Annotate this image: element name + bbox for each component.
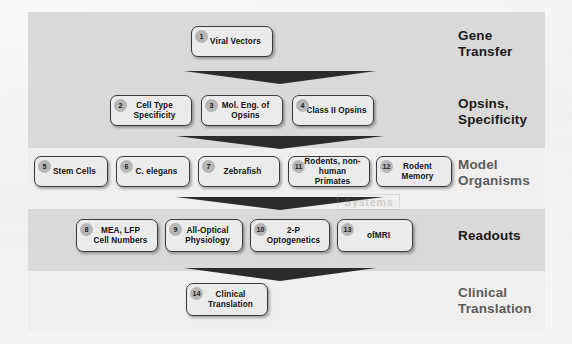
node-badge: 12 [380,160,393,173]
node-badge: 6 [120,160,133,173]
node-badge: 2 [114,99,127,112]
node-label: Clinical Translation [197,290,257,310]
node-ofmri[interactable]: 13 ofMRI [337,219,413,252]
node-rodent-memory[interactable]: 12 Rodent Memory [376,156,452,187]
arrow-gene-transfer-to-opsins [184,71,376,84]
tier-label-opsins-specificity: Opsins, Specificity [458,96,527,127]
node-stem-cells[interactable]: 5 Stem Cells [34,156,108,187]
tier-label-readouts: Readouts [458,228,521,244]
node-badge: 10 [254,223,267,236]
figure-canvas: Systems 1 Viral Vectors Gene Transfer 2 … [0,0,572,344]
node-label: Mol. Eng. of Opsins [211,101,274,121]
node-mol-eng-of-opsins[interactable]: 3 Mol. Eng. of Opsins [201,95,283,126]
node-badge: 4 [296,99,309,112]
node-class-ii-opsins[interactable]: 4 Class II Opsins [292,95,374,126]
node-label: Viral Vectors [199,37,265,47]
node-badge: 13 [341,223,354,236]
node-badge: 9 [169,223,182,236]
node-clinical-translation[interactable]: 14 Clinical Translation [186,283,268,316]
node-badge: 11 [292,160,305,173]
arrow-opsins-to-model-organisms [176,136,384,149]
tier-label-gene-transfer: Gene Transfer [458,28,512,59]
node-mea-lfp-cell-numbers[interactable]: 8 MEA, LFP Cell Numbers [76,219,158,252]
node-zebrafish[interactable]: 7 Zebrafish [198,156,280,187]
tier-label-clinical-translation: Clinical Translation [458,285,532,316]
arrow-model-organisms-to-readouts [176,197,384,210]
node-label: Zebrafish [213,167,266,177]
node-label: C. elegans [125,167,182,177]
node-label: Cell Type Specificity [122,101,179,121]
node-cell-type-specificity[interactable]: 2 Cell Type Specificity [110,95,192,126]
node-badge: 5 [38,160,51,173]
node-2p-optogenetics[interactable]: 10 2-P Optogenetics [250,219,330,252]
arrow-readouts-to-clinical [184,268,376,281]
node-label: ofMRI [356,231,394,241]
node-badge: 8 [80,223,93,236]
node-badge: 7 [202,160,215,173]
node-rodents-nonhuman-primates[interactable]: 11 Rodents, non- human Primates [288,156,370,187]
node-all-optical-physiology[interactable]: 9 All-Optical Physiology [165,219,243,252]
node-badge: 14 [190,287,203,300]
node-viral-vectors[interactable]: 1 Viral Vectors [191,26,273,57]
node-label: All-Optical Physiology [174,226,234,246]
node-c-elegans[interactable]: 6 C. elegans [116,156,190,187]
node-badge: 3 [205,99,218,112]
tier-label-model-organisms: Model Organisms [458,157,530,188]
node-badge: 1 [195,30,208,43]
